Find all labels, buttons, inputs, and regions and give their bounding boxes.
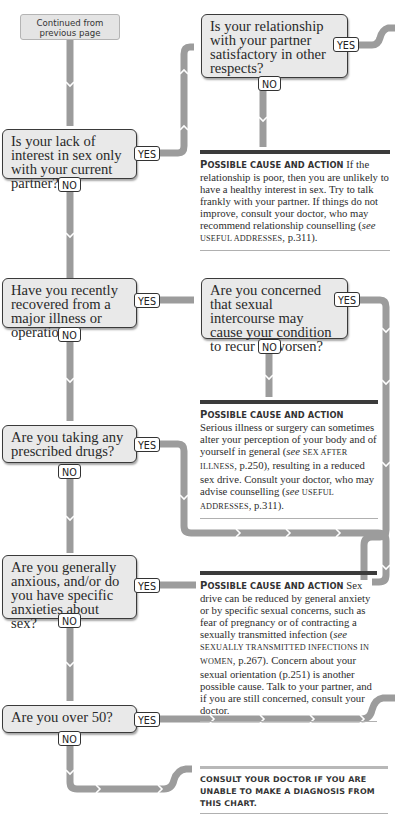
result-bottom-rule <box>200 721 377 722</box>
question-box-anxious: Are you generally anxious, and/or do you… <box>2 555 137 619</box>
arrow-q1b-yes-out <box>358 28 395 45</box>
result-bottom-rule <box>200 250 390 251</box>
question-box-recovered-illness: Have you recently recovered from a major… <box>2 278 137 328</box>
no-tag-drugs[interactable]: NO <box>58 464 81 479</box>
no-tag-partner-only[interactable]: NO <box>58 177 81 192</box>
yes-tag-illness[interactable]: YES <box>134 293 160 308</box>
result-body: POSSIBLE CAUSE AND ACTION Sex drive can … <box>200 579 377 716</box>
arrow-q5-no-to-final <box>70 745 192 789</box>
question-text: Are you over 50? <box>11 709 113 725</box>
no-tag-concerned-recur[interactable]: NO <box>258 339 281 354</box>
no-tag-anxious[interactable]: NO <box>58 613 81 628</box>
result-top-rule <box>200 150 390 154</box>
possible-cause-illness: POSSIBLE CAUSE AND ACTION Serious illnes… <box>200 400 378 519</box>
yes-tag-anxious[interactable]: YES <box>134 578 160 593</box>
final-top-rule <box>200 766 388 769</box>
yes-tag-relationship[interactable]: YES <box>333 37 359 52</box>
result-heading: POSSIBLE CAUSE AND ACTION <box>200 160 344 170</box>
result-top-rule <box>200 400 378 404</box>
start-label-line1: Continued from <box>21 18 119 28</box>
question-box-partner-only: Is your lack of interest in sex only wit… <box>2 129 137 179</box>
result-heading: POSSIBLE CAUSE AND ACTION <box>200 581 344 591</box>
possible-cause-anxiety: POSSIBLE CAUSE AND ACTION Sex drive can … <box>200 571 377 722</box>
final-note-text: CONSULT YOUR DOCTOR IF YOU ARE UNABLE TO… <box>200 774 388 810</box>
arrow-q1-yes-to-q1b <box>160 47 194 153</box>
yes-tag-partner-only[interactable]: YES <box>134 146 160 161</box>
yes-tag-drugs[interactable]: YES <box>134 437 160 452</box>
result-bottom-rule <box>200 518 378 519</box>
question-box-prescribed-drugs: Are you taking any prescribed drugs? <box>2 425 137 463</box>
start-label-line2: previous page <box>21 28 119 38</box>
question-box-relationship-satisfactory: Is your relationship with your partner s… <box>201 14 348 78</box>
yes-tag-over-50[interactable]: YES <box>134 712 160 727</box>
question-box-concerned-recur: Are you concerned that sexual intercours… <box>201 278 348 339</box>
cross-reference-link[interactable]: USEFUL ADDRESSES <box>200 234 282 243</box>
question-text: Is your relationship with your partner s… <box>210 18 326 76</box>
question-text: Are you taking any prescribed drugs? <box>11 429 123 459</box>
result-top-rule <box>200 571 377 575</box>
no-tag-over-50[interactable]: NO <box>58 731 81 746</box>
no-tag-illness[interactable]: NO <box>58 327 81 342</box>
question-box-over-50: Are you over 50? <box>2 705 137 733</box>
result-heading: POSSIBLE CAUSE AND ACTION <box>200 410 344 420</box>
no-tag-relationship[interactable]: NO <box>258 76 281 91</box>
yes-tag-concerned-recur[interactable]: YES <box>334 292 360 307</box>
continued-from-previous-page-box: Continued from previous page <box>20 14 120 40</box>
possible-cause-relationship: POSSIBLE CAUSE AND ACTION If the relatio… <box>200 150 390 251</box>
result-body: POSSIBLE CAUSE AND ACTION Serious illnes… <box>200 408 378 513</box>
result-body: POSSIBLE CAUSE AND ACTION If the relatio… <box>200 158 390 245</box>
final-consult-note: CONSULT YOUR DOCTOR IF YOU ARE UNABLE TO… <box>200 766 388 814</box>
